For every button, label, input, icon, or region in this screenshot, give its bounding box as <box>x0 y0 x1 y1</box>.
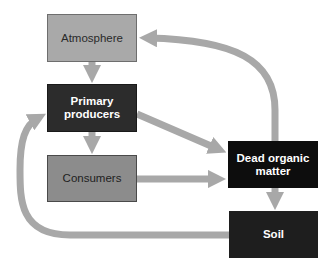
node-dead-organic-matter-label: Dead organic matter <box>233 152 313 178</box>
carbon-cycle-diagram: Atmosphere Primary producers Consumers D… <box>0 0 333 270</box>
node-primary-producers-label: Primary producers <box>57 95 127 121</box>
node-atmosphere-label: Atmosphere <box>61 32 123 45</box>
node-soil-label: Soil <box>263 228 284 241</box>
node-consumers-label: Consumers <box>63 172 122 185</box>
node-atmosphere: Atmosphere <box>47 14 137 62</box>
arrow-producers-to-dead-organic-matter <box>137 114 218 149</box>
node-consumers: Consumers <box>47 155 137 202</box>
node-primary-producers: Primary producers <box>47 84 137 132</box>
node-dead-organic-matter: Dead organic matter <box>228 141 318 188</box>
node-soil: Soil <box>229 211 318 258</box>
